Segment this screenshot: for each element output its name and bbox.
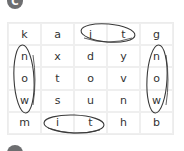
word-search-grid: k a i t g n x d y n o t o v o w s u n w … — [7, 22, 174, 135]
section-label: C — [11, 0, 18, 7]
grid-cell[interactable]: m — [8, 112, 41, 134]
grid-cell[interactable]: x — [41, 45, 74, 67]
grid-cell[interactable]: k — [8, 23, 41, 45]
grid-cell[interactable]: u — [74, 90, 107, 112]
grid-cell[interactable]: w — [140, 90, 173, 112]
grid-cell[interactable]: w — [8, 90, 41, 112]
grid-cell[interactable]: n — [107, 90, 140, 112]
grid-cell[interactable]: n — [8, 45, 41, 67]
section-badge: C — [7, 0, 23, 9]
grid-cell[interactable]: d — [74, 45, 107, 67]
grid-cell[interactable]: h — [107, 112, 140, 134]
next-section-badge — [7, 145, 23, 151]
grid-cell[interactable]: o — [74, 67, 107, 89]
grid-cell[interactable]: n — [140, 45, 173, 67]
grid-cell[interactable]: b — [140, 112, 173, 134]
grid-cell[interactable]: o — [140, 67, 173, 89]
grid-cell[interactable]: a — [41, 23, 74, 45]
grid-cell[interactable]: s — [41, 90, 74, 112]
grid-cell[interactable]: t — [41, 67, 74, 89]
grid-cell[interactable]: y — [107, 45, 140, 67]
grid-cell[interactable]: o — [8, 67, 41, 89]
grid-cell[interactable]: t — [74, 112, 107, 134]
grid-cell[interactable]: i — [74, 23, 107, 45]
grid-cell[interactable]: v — [107, 67, 140, 89]
grid-cell[interactable]: t — [107, 23, 140, 45]
grid-cell[interactable]: i — [41, 112, 74, 134]
grid-cell[interactable]: g — [140, 23, 173, 45]
